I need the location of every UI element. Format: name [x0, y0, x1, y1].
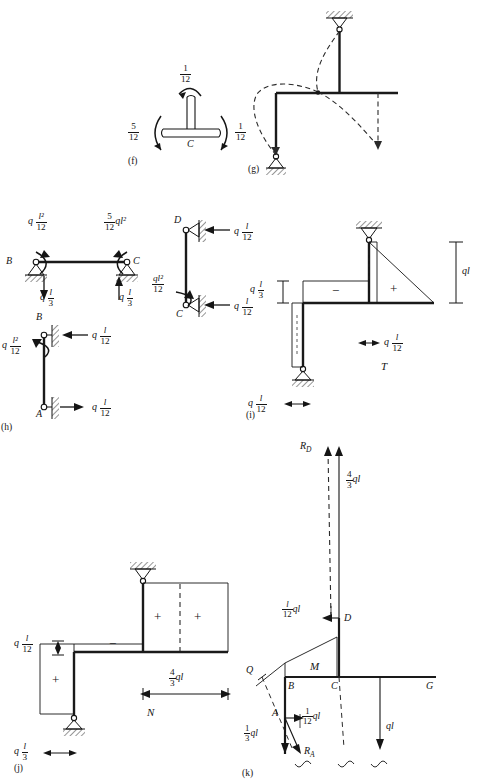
q-symbol-6: q [2, 339, 7, 350]
panel-h-beam-moment-right: 5 12 ql² [104, 212, 126, 232]
panel-i-dim-right: ql [462, 265, 470, 276]
panel-k-node-d: D [344, 612, 351, 623]
shear-column-strip [369, 242, 377, 303]
panel-j-sign-positive-mid: + [154, 609, 161, 625]
panel-j-graphic [14, 548, 276, 779]
q-symbol-1: q [28, 215, 33, 226]
panel-k-node-q: Q [246, 664, 253, 675]
ql2-tail: ql² [115, 215, 126, 226]
panel-h-id: (h) [1, 422, 12, 432]
panel-k-node-g: G [426, 680, 433, 691]
ql-tail-2: ql [353, 473, 361, 484]
fraction-l-12-f: l 12 [256, 394, 267, 414]
ql-tail-3: ql [293, 604, 300, 614]
reaction-a-subscript: A [310, 750, 315, 759]
panel-f-joint-label: C [187, 138, 194, 149]
panel-f-moment-left: 5 12 [128, 122, 139, 142]
panel-k-reaction-d-label: RD [300, 440, 312, 454]
panel-f-moment-top: 1 12 [180, 64, 191, 84]
fraction-ql2-12-a: l² 12 [36, 212, 47, 232]
panel-f: 1 12 5 12 1 12 C (f) [130, 72, 260, 177]
q-symbol-10: q [384, 336, 389, 347]
q-symbol-3: q [119, 291, 124, 302]
fraction-right: 1 12 [235, 122, 246, 142]
panel-i-sign-positive: + [390, 281, 397, 297]
moment-line-upper [256, 637, 337, 686]
q-symbol-2: q [40, 291, 45, 302]
panel-i: − + ql q l 3 q l 12 q l 12 T (i) [230, 215, 479, 430]
panel-i-sign-negative: − [332, 283, 339, 299]
panel-j-sign-negative: − [109, 636, 116, 652]
panel-i-id: (i) [246, 410, 255, 420]
panel-k-force-right: 4 3 ql [346, 470, 360, 490]
panel-j-dim-left: q l 12 [14, 634, 33, 654]
panel-h-cd-node-d: D [174, 214, 181, 225]
support-hatch-bottom [266, 168, 286, 175]
panel-g-id: (g) [248, 164, 259, 174]
panel-k-diagram-name: M [310, 660, 319, 672]
q-symbol-11: q [248, 397, 253, 408]
panel-k-load-ql: ql [386, 720, 394, 731]
q-symbol-7: q [92, 329, 97, 340]
fraction-l-3-c: l 3 [258, 280, 265, 300]
ground-squiggle-2 [338, 761, 354, 767]
panel-j-id: (j) [14, 763, 23, 773]
panel-h-ab-node-a: A [36, 408, 42, 419]
shear-positive-triangle [369, 242, 434, 303]
panel-h-beam-node-b: B [6, 255, 12, 266]
ground-squiggle-3 [371, 761, 387, 767]
panel-k-force-a-vertical: 1 3 ql [244, 724, 258, 743]
panel-h-ab-moment: q l² 12 [2, 336, 21, 356]
fraction-l-12-e: l 12 [392, 333, 403, 353]
panel-h-beam-moment-left: q l² 12 [28, 212, 47, 232]
q-symbol-9: q [250, 283, 255, 294]
reaction-d-subscript: D [306, 445, 311, 454]
shear-lower-column-strip [292, 303, 303, 367]
q-symbol-8: q [92, 401, 97, 412]
fraction-1-12-a: 1 12 [302, 707, 313, 726]
panel-j-dim-span: 4 3 ql [169, 668, 183, 688]
fraction-l-12-h: l 12 [282, 600, 293, 619]
deflection-left-column [254, 84, 318, 155]
panel-i-dim-left: q l 3 [250, 280, 264, 300]
panel-h-ab-force-bottom: q l 12 [92, 398, 111, 418]
q-symbol-13: q [14, 745, 19, 756]
line-of-action-c [339, 677, 344, 748]
deflection-upper-column [317, 31, 340, 92]
panel-j: − + + + q l 12 4 3 ql q l 3 N (j) [14, 548, 276, 779]
panel-g: (g) [250, 4, 479, 179]
deflection-beam-right [318, 92, 378, 146]
panel-k-force-d: l 12 ql [282, 600, 300, 619]
ql-tail-5: ql [250, 728, 257, 738]
fraction-l-3-d: l 3 [22, 742, 29, 762]
panel-k-node-b: B [288, 680, 294, 691]
panel-k-force-a-horizontal: 1 12 ql [302, 707, 320, 726]
fraction-left: 5 12 [128, 122, 139, 142]
panel-k-node-c: C [331, 680, 338, 691]
panel-h-cd-node-c: C [176, 308, 183, 319]
panel-h-beam-reaction-left: q l 3 [40, 288, 54, 308]
panel-h-beam-node-c: C [133, 255, 140, 266]
panel-h-cd-moment: ql² 12 [152, 274, 164, 294]
panel-k-node-a: A [272, 707, 278, 718]
fraction-5-12-a: 5 12 [104, 212, 115, 232]
panel-i-dim-mid: q l 12 [384, 333, 403, 353]
panel-j-sign-positive-left: + [52, 672, 59, 688]
ql-tail-1: ql [176, 671, 184, 682]
ql-tail-4: ql [313, 711, 320, 721]
panel-k: RD 4 3 ql l 12 ql D Q B C G A M 1 12 ql … [240, 432, 479, 779]
panel-f-moment-right: 1 12 [235, 122, 246, 142]
fraction-l-3-a: l 3 [48, 288, 55, 308]
fraction-l-12-c: l 12 [100, 326, 111, 346]
fraction-4-3-b: 4 3 [346, 470, 353, 490]
panel-j-sign-positive-right: + [194, 609, 201, 625]
q-symbol-12: q [14, 637, 19, 648]
fraction-ql2-12-b: ql² 12 [152, 274, 164, 294]
panel-j-diagram-name: N [147, 706, 154, 718]
panel-i-diagram-name: T [381, 360, 387, 372]
panel-i-graphic [230, 215, 479, 430]
fraction-l-12-g: l 12 [22, 634, 33, 654]
fraction-l-3-b: l 3 [127, 288, 134, 308]
ground-squiggle-1 [295, 761, 311, 767]
panel-f-id: (f) [128, 156, 138, 166]
